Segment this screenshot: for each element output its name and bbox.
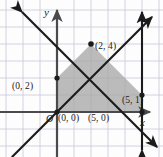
point-label-5-1: (5, 1) [122,96,143,106]
x-axis-label: x [140,117,145,128]
graph-canvas [0,0,163,157]
point-marker-2-4 [88,41,94,47]
point-label-0-0: (0, 0) [58,114,79,124]
point-label-0-2: (0, 2) [12,82,33,92]
origin-label: O [46,114,53,124]
point-label-2-4: (2, 4) [95,42,116,52]
y-axis-label: y [44,7,49,18]
point-label-5-0: (5, 0) [88,114,109,124]
point-marker-0-2 [54,75,59,80]
point-marker-5-0 [139,109,144,114]
coordinate-graph-figure: y x O (0, 2) (2, 4) (5, 1) (0, 0) (5, 0) [0,0,163,157]
